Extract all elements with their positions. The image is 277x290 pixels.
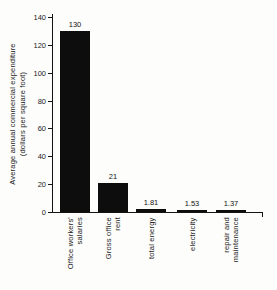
y-tick-mark (48, 212, 52, 213)
y-tick-mark (48, 17, 52, 18)
category-label-line: rent (113, 217, 122, 285)
bar-chart: Average annual commercial expenditure (d… (0, 0, 277, 290)
category-label: repair andmaintenance (222, 217, 240, 285)
bar (177, 210, 207, 212)
bar-value-label: 130 (55, 20, 95, 29)
category-label-line: salaries (75, 217, 84, 285)
y-tick-label: 140 (26, 13, 46, 22)
y-axis-line (52, 14, 53, 213)
x-axis-end-tick (262, 212, 263, 217)
y-tick-label: 20 (26, 180, 46, 189)
bar (216, 210, 246, 212)
y-axis-title: Average annual commercial expenditure (d… (8, 19, 28, 209)
y-tick-mark (48, 45, 52, 46)
category-label: electricity (188, 217, 197, 285)
bar-value-label: 1.53 (172, 199, 212, 208)
y-tick-mark (48, 156, 52, 157)
category-label-line: Gross office (104, 217, 113, 285)
y-tick-mark (48, 73, 52, 74)
y-tick-label: 0 (26, 208, 46, 217)
bar (60, 31, 90, 212)
bar (98, 183, 128, 212)
y-tick-mark (48, 184, 52, 185)
category-label-line: maintenance (231, 217, 240, 285)
y-tick-label: 60 (26, 124, 46, 133)
y-tick-label: 40 (26, 152, 46, 161)
bar-value-label: 21 (93, 172, 133, 181)
y-tick-label: 80 (26, 97, 46, 106)
category-label: Gross officerent (104, 217, 122, 285)
bar-value-label: 1.81 (131, 198, 171, 207)
category-label-line: Office workers' (66, 217, 75, 285)
category-label: total energy (147, 217, 156, 285)
category-label: Office workers'salaries (66, 217, 84, 285)
category-label-line: total energy (147, 217, 156, 285)
category-label-line: electricity (188, 217, 197, 285)
y-tick-label: 120 (26, 41, 46, 50)
y-tick-mark (48, 128, 52, 129)
bar (136, 209, 166, 212)
y-axis-title-line1: Average annual commercial expenditure (8, 19, 18, 209)
bar-value-label: 1.37 (211, 199, 251, 208)
x-axis-line (52, 212, 263, 213)
category-label-line: repair and (222, 217, 231, 285)
y-tick-label: 100 (26, 69, 46, 78)
y-tick-mark (48, 101, 52, 102)
